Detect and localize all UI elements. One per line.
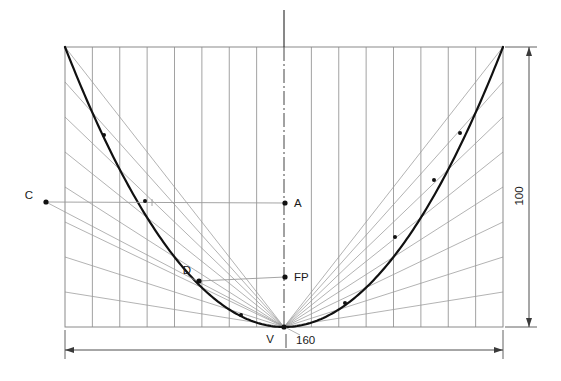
label-dimension-width: 160 (296, 334, 315, 346)
label-point-fp: FP (294, 271, 309, 283)
curve-marker-dot (343, 301, 347, 305)
point-c (43, 199, 48, 204)
curve-marker-dot (458, 131, 462, 135)
curve-marker-points-group (102, 131, 462, 317)
label-point-a: A (294, 197, 302, 209)
label-dimension-height: 100 (513, 186, 525, 205)
dimension-arrow-bottom (526, 318, 532, 327)
curve-marker-dot (393, 235, 397, 239)
label-point-d: D (183, 264, 191, 276)
dimension-arrow-left (65, 347, 74, 353)
point-v (281, 324, 286, 329)
parabola-construction-drawing: C A FP D V 160 100 (0, 0, 561, 381)
dimension-arrow-top (526, 47, 532, 56)
curve-marker-dot (143, 199, 147, 203)
curve-marker-dot (432, 178, 436, 182)
line-c-to-a (46, 202, 285, 203)
point-d (196, 278, 201, 283)
point-fp (282, 274, 287, 279)
point-a (282, 200, 287, 205)
dimension-arrow-right (494, 347, 503, 353)
curve-marker-dot (102, 133, 106, 137)
drawing-canvas: C A FP D V 160 100 (0, 0, 561, 381)
label-point-c: C (25, 189, 33, 201)
label-point-v: V (266, 333, 274, 345)
curve-marker-dot (239, 313, 243, 317)
directrix-and-focus-lines-group (46, 199, 300, 335)
ray-from-c (46, 202, 300, 335)
